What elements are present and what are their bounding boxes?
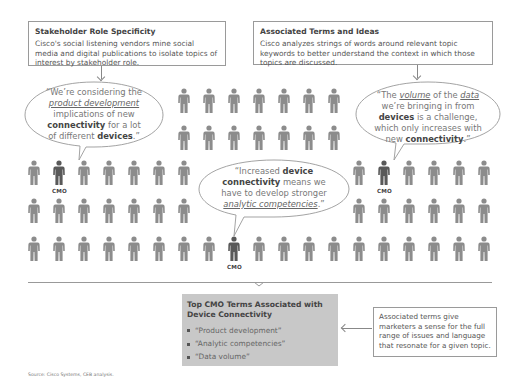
person-icon	[103, 236, 115, 262]
cmo-person-icon	[53, 160, 65, 186]
person-icon	[328, 125, 340, 151]
person-icon	[228, 88, 240, 114]
person-icon	[53, 236, 65, 262]
person-icon	[403, 160, 415, 186]
person-icon	[78, 236, 90, 262]
person-icon	[478, 160, 490, 186]
person-icon	[203, 125, 215, 151]
person-icon	[78, 160, 90, 186]
quote-right-text: “The volume of the data we’re bringing i…	[366, 90, 490, 145]
person-icon	[203, 236, 215, 262]
person-icon	[178, 88, 190, 114]
person-icon	[178, 125, 190, 151]
cmo-label: CMO	[377, 188, 392, 194]
person-icon	[303, 88, 315, 114]
stakeholder-role-title: Stakeholder Role Specificity	[35, 27, 219, 36]
person-icon	[428, 198, 440, 224]
person-icon	[178, 198, 190, 224]
person-icon	[303, 125, 315, 151]
person-icon	[28, 198, 40, 224]
person-icon	[103, 198, 115, 224]
stakeholder-role-text: Cisco's social listening vendors mine so…	[35, 39, 219, 68]
associated-terms-text: Cisco analyzes strings of words around r…	[260, 39, 486, 68]
cmo-person-icon	[378, 160, 390, 186]
person-icon	[78, 198, 90, 224]
person-icon	[28, 160, 40, 186]
associated-terms-title: Associated Terms and Ideas	[260, 27, 486, 36]
term-item: “Product development”	[187, 324, 338, 337]
cmo-label: CMO	[52, 188, 67, 194]
cmo-person-icon	[228, 236, 240, 262]
stakeholder-role-box: Stakeholder Role Specificity Cisco's soc…	[28, 21, 226, 66]
person-icon	[278, 88, 290, 114]
associated-arrow-icon	[417, 65, 418, 78]
source-note: Source: Cisco Systems, CEB analysis.	[28, 372, 114, 377]
person-icon	[403, 236, 415, 262]
person-icon	[278, 125, 290, 151]
person-icon	[428, 160, 440, 186]
person-icon	[228, 125, 240, 151]
person-icon	[153, 198, 165, 224]
person-icon	[378, 198, 390, 224]
person-icon	[153, 236, 165, 262]
cmo-label: CMO	[227, 264, 242, 270]
associated-terms-box: Associated Terms and Ideas Cisco analyze…	[253, 21, 493, 65]
person-icon	[453, 160, 465, 186]
person-icon	[253, 125, 265, 151]
person-icon	[178, 236, 190, 262]
top-cmo-terms-box: Top CMO Terms Associated with Device Con…	[182, 294, 338, 366]
person-icon	[353, 236, 365, 262]
person-icon	[453, 236, 465, 262]
top-cmo-terms-list: “Product development” “Analytic competen…	[187, 324, 338, 364]
quote-center-text: “Increased device connectivity means we …	[216, 166, 332, 210]
grouping-bracket-line	[28, 282, 492, 283]
quote-bubble-left: “We’re considering the product developme…	[22, 80, 166, 162]
person-icon	[353, 160, 365, 186]
person-icon	[153, 160, 165, 186]
term-item: “Data volume”	[187, 350, 338, 363]
person-icon	[478, 236, 490, 262]
person-icon	[353, 198, 365, 224]
person-icon	[478, 198, 490, 224]
person-icon	[253, 236, 265, 262]
person-icon	[128, 236, 140, 262]
person-icon	[203, 88, 215, 114]
person-icon	[128, 160, 140, 186]
person-icon	[253, 88, 265, 114]
note-arrow-icon	[342, 328, 372, 329]
quote-bubble-center: “Increased device connectivity means we …	[196, 158, 352, 238]
person-icon	[128, 198, 140, 224]
top-cmo-terms-title: Top CMO Terms Associated with Device Con…	[187, 300, 338, 320]
person-icon	[303, 236, 315, 262]
person-icon	[278, 236, 290, 262]
person-icon	[178, 160, 190, 186]
bracket-notch-icon	[254, 282, 264, 288]
person-icon	[428, 236, 440, 262]
person-icon	[28, 236, 40, 262]
quote-bubble-right: “The volume of the data we’re bringing i…	[352, 80, 504, 162]
person-icon	[53, 198, 65, 224]
person-icon	[378, 236, 390, 262]
person-icon	[328, 88, 340, 114]
person-icon	[103, 160, 115, 186]
associated-terms-note: Associated terms give marketers a sense …	[373, 307, 497, 357]
person-icon	[403, 198, 415, 224]
stakeholder-arrow-icon	[101, 66, 102, 79]
term-item: “Analytic competencies”	[187, 337, 338, 350]
person-icon	[328, 236, 340, 262]
quote-left-text: “We’re considering the product developme…	[44, 87, 144, 142]
person-icon	[453, 198, 465, 224]
